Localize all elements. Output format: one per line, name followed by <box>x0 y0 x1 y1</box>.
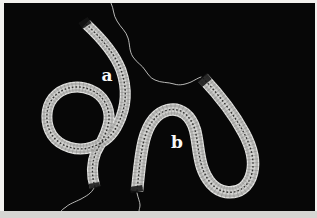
specimen-label-a: a <box>101 65 112 85</box>
specimen-label-b: b <box>171 132 183 152</box>
specimen-a-tip-anterior <box>83 20 87 26</box>
specimen-b-tip-anterior <box>136 186 137 192</box>
frame-bottom-strip <box>0 211 317 218</box>
specimen-photo-svg: a b <box>0 0 317 218</box>
specimen-a-tip-posterior <box>94 183 95 188</box>
specimen-b-tip-posterior <box>202 77 207 83</box>
figure-frame: a b <box>0 0 317 218</box>
